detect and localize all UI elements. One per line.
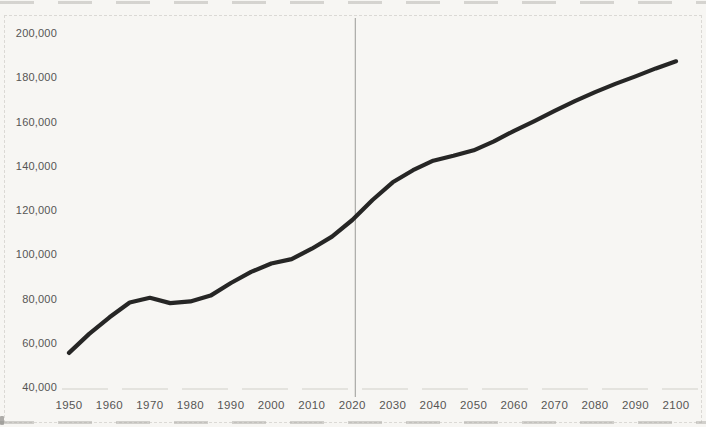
x-tick-label: 2010 — [298, 399, 325, 411]
x-tick-label: 1970 — [136, 399, 163, 411]
x-tick-label: 2030 — [379, 399, 406, 411]
x-tick-label: 2060 — [501, 399, 528, 411]
x-tick-label: 2020 — [339, 399, 366, 411]
x-tick-label: 2000 — [258, 399, 285, 411]
y-tick-label: 40,000 — [22, 381, 57, 393]
x-tick-label: 2090 — [622, 399, 649, 411]
y-tick-label: 160,000 — [16, 116, 57, 128]
x-tick-label: 1980 — [177, 399, 204, 411]
x-tick-label: 1950 — [55, 399, 82, 411]
data-line-value — [69, 61, 676, 353]
x-tick-label: 2070 — [541, 399, 568, 411]
x-tick-label: 1960 — [96, 399, 123, 411]
y-tick-label: 120,000 — [16, 204, 57, 216]
scanned-chart-page: 40,00060,00080,000100,000120,000140,0001… — [0, 0, 706, 427]
y-tick-label: 140,000 — [16, 160, 57, 172]
x-tick-label: 2050 — [460, 399, 487, 411]
y-tick-label: 100,000 — [16, 248, 57, 260]
x-tick-label: 2040 — [420, 399, 447, 411]
y-tick-label: 60,000 — [22, 337, 57, 349]
x-tick-label: 2100 — [662, 399, 689, 411]
scan-artifact-left-mark — [0, 416, 4, 425]
x-tick-label: 2080 — [581, 399, 608, 411]
y-tick-label: 180,000 — [16, 71, 57, 83]
x-tick-label: 1990 — [217, 399, 244, 411]
line-chart: 40,00060,00080,000100,000120,000140,0001… — [0, 0, 706, 427]
y-tick-label: 80,000 — [22, 293, 57, 305]
y-tick-label: 200,000 — [16, 27, 57, 39]
